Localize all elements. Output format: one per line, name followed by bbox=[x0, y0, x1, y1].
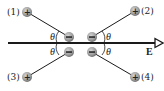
diagram-canvas: E θ + (1) θ + (2) θ bbox=[0, 0, 164, 91]
plus-sign: + bbox=[132, 73, 139, 82]
dipole-2: θ + (2) bbox=[87, 6, 154, 43]
dipole-label: (1) bbox=[7, 7, 20, 17]
field-arrow: E bbox=[8, 39, 163, 58]
angle-arc bbox=[56, 31, 59, 43]
angle-label: θ bbox=[106, 31, 111, 42]
dipole-label: (3) bbox=[7, 72, 20, 82]
dipole-4: θ + (4) bbox=[87, 43, 154, 82]
angle-arc bbox=[102, 43, 105, 55]
minus-sign bbox=[89, 51, 95, 53]
angle-label: θ bbox=[50, 46, 55, 57]
plus-sign: + bbox=[132, 7, 139, 16]
dipole-3: θ + (3) bbox=[7, 43, 74, 82]
angle-arc bbox=[56, 43, 59, 55]
dipole-field-diagram: E θ + (1) θ + (2) θ bbox=[0, 0, 164, 91]
dipole-1: θ + (1) bbox=[7, 7, 74, 43]
arrowhead-icon bbox=[155, 39, 163, 48]
angle-arc bbox=[102, 31, 105, 43]
plus-sign: + bbox=[24, 73, 31, 82]
angle-label: θ bbox=[50, 31, 55, 42]
minus-sign bbox=[89, 36, 95, 38]
minus-sign bbox=[66, 36, 72, 38]
angle-label: θ bbox=[106, 46, 111, 57]
dipole-label: (4) bbox=[141, 72, 154, 82]
field-label: E bbox=[146, 46, 153, 57]
plus-sign: + bbox=[24, 8, 31, 17]
minus-sign bbox=[66, 51, 72, 53]
dipole-label: (2) bbox=[141, 6, 154, 16]
